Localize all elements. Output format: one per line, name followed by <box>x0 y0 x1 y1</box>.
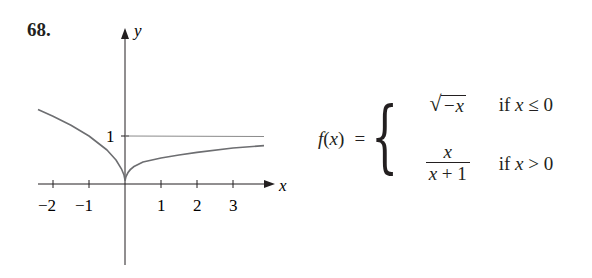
left-brace-icon: { <box>371 97 398 175</box>
fraction: x x + 1 <box>426 142 470 185</box>
function-name: f <box>318 128 323 149</box>
case-row: x x + 1 if x > 0 <box>407 142 554 185</box>
case-row: √ −x if x ≤ 0 <box>407 93 554 116</box>
y-tick-label-1: 1 <box>106 127 115 146</box>
equals-sign: = <box>354 128 365 150</box>
function-lhs: f(x) <box>318 128 344 150</box>
case-condition: if x > 0 <box>499 153 554 175</box>
radicand: −x <box>443 95 464 116</box>
case-condition: if x ≤ 0 <box>499 94 553 116</box>
function-graph: y x 1 −2 −1 1 2 3 <box>0 0 300 278</box>
x-tick-label: 2 <box>193 196 202 215</box>
asymptote-line <box>125 136 264 137</box>
y-axis-label: y <box>132 21 142 40</box>
piecewise-formula: f(x) = { √ −x if x ≤ 0 x x + 1 if x > 0 <box>318 93 553 185</box>
y-axis-arrow-icon <box>121 28 129 39</box>
square-root: √ −x <box>430 93 466 116</box>
x-tick-label: −1 <box>75 196 93 215</box>
x-axis-label: x <box>278 176 287 195</box>
cases: √ −x if x ≤ 0 x x + 1 if x > 0 <box>407 93 554 185</box>
x-tick-label: 1 <box>157 196 166 215</box>
x-tick-label: 3 <box>229 196 238 215</box>
x-axis-arrow-icon <box>264 180 275 188</box>
curve-rational-branch-drawn <box>125 146 264 181</box>
x-tick-label: −2 <box>38 196 56 215</box>
numerator: x <box>444 142 452 162</box>
denominator: x + 1 <box>426 162 470 185</box>
function-argument: x <box>330 128 338 149</box>
